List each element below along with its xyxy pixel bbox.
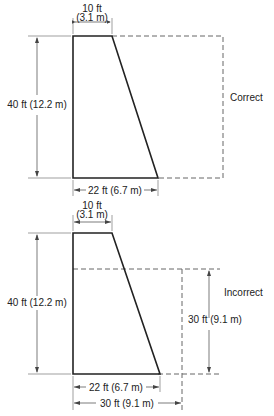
- caption-correct: Correct: [230, 92, 263, 103]
- base-label: 22 ft (6.7 m): [89, 382, 143, 393]
- top-width-m: (3.1 m): [76, 12, 108, 23]
- figure-correct: 10 ft (3.1 m) 40 ft (12.2 m) 22 ft (6.7 …: [7, 3, 263, 196]
- height-label: 40 ft (12.2 m): [7, 99, 66, 110]
- wall-section: [73, 36, 158, 178]
- height-label: 40 ft (12.2 m): [7, 297, 66, 308]
- base-label: 22 ft (6.7 m): [88, 185, 142, 196]
- dashed-height-label: 30 ft (9.1 m): [188, 314, 242, 325]
- dashed-base-label: 30 ft (9.1 m): [100, 398, 154, 409]
- wall-section: [73, 233, 160, 374]
- dashed-rectangle: [112, 36, 223, 178]
- caption-incorrect: Incorrect: [224, 287, 263, 298]
- figure-incorrect: 10 ft (3.1 m) 40 ft (12.2 m) 30 ft (9.1 …: [7, 200, 263, 410]
- top-width-m: (3.1 m): [76, 209, 108, 220]
- diagram-canvas: 10 ft (3.1 m) 40 ft (12.2 m) 22 ft (6.7 …: [0, 0, 274, 416]
